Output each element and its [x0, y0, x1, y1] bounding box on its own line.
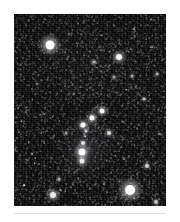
background-star	[149, 95, 150, 96]
background-star	[78, 202, 79, 203]
background-star	[70, 187, 71, 188]
background-star	[82, 41, 83, 42]
background-star	[122, 139, 123, 140]
background-star	[44, 160, 45, 161]
background-star	[86, 15, 87, 16]
background-star	[163, 70, 164, 71]
background-star	[49, 97, 50, 98]
background-star	[71, 51, 72, 52]
background-star	[131, 128, 132, 129]
background-star	[110, 205, 111, 206]
background-star	[48, 186, 49, 187]
background-star	[165, 159, 166, 160]
background-star	[51, 159, 52, 160]
background-star	[154, 17, 155, 18]
background-star	[87, 31, 88, 32]
background-star	[58, 21, 59, 22]
background-star	[118, 172, 119, 173]
background-star	[30, 135, 31, 136]
background-star	[103, 94, 104, 95]
background-star	[92, 32, 93, 33]
background-star	[76, 128, 77, 129]
background-star	[157, 144, 158, 145]
background-star	[112, 161, 113, 162]
background-star	[162, 175, 163, 176]
star-sigma-orionis	[85, 130, 88, 133]
background-star	[61, 142, 62, 143]
background-star	[48, 86, 49, 87]
background-star	[36, 127, 37, 128]
background-star	[37, 92, 38, 93]
background-star	[135, 36, 136, 37]
background-star	[78, 196, 79, 197]
background-star	[19, 154, 20, 155]
background-star	[161, 182, 162, 183]
background-star	[129, 126, 130, 127]
background-star	[15, 53, 16, 54]
background-star	[124, 138, 125, 139]
background-star	[19, 193, 20, 194]
background-star	[105, 66, 106, 67]
background-star	[79, 38, 80, 39]
background-star	[30, 199, 31, 200]
background-star	[105, 34, 106, 35]
background-star	[139, 103, 140, 104]
background-star	[153, 87, 154, 88]
background-star	[74, 180, 75, 181]
background-star	[141, 149, 142, 150]
background-star	[61, 22, 62, 23]
background-star	[79, 178, 80, 179]
background-star	[126, 27, 127, 28]
star-field-star-d	[159, 133, 161, 135]
background-star	[69, 174, 70, 175]
background-star	[148, 181, 149, 182]
background-star	[16, 51, 17, 52]
background-star	[151, 25, 152, 26]
background-star	[32, 132, 33, 133]
background-star	[150, 93, 151, 94]
background-star	[47, 65, 48, 66]
background-star	[145, 74, 146, 75]
background-star	[68, 49, 69, 50]
background-star	[96, 130, 97, 131]
background-star	[155, 28, 156, 29]
background-star	[107, 191, 108, 192]
background-star	[95, 200, 96, 201]
background-star	[154, 107, 155, 108]
background-star	[58, 102, 59, 103]
background-star	[111, 198, 112, 199]
background-star	[42, 128, 43, 129]
background-star	[142, 55, 143, 56]
background-star	[155, 119, 156, 120]
background-star	[157, 16, 158, 17]
background-star	[102, 129, 103, 130]
background-star	[135, 99, 136, 100]
background-star	[122, 16, 123, 17]
background-star	[67, 164, 68, 165]
background-star	[136, 111, 137, 112]
background-star	[115, 46, 116, 47]
background-star	[146, 24, 147, 25]
background-star	[144, 197, 145, 198]
background-star	[135, 55, 136, 56]
background-star	[95, 124, 96, 125]
background-star	[59, 158, 60, 159]
background-star	[42, 129, 43, 130]
background-star	[160, 101, 161, 102]
background-star	[111, 169, 112, 170]
background-star	[155, 34, 156, 35]
background-star	[39, 184, 40, 185]
background-star	[93, 42, 94, 43]
background-star	[144, 82, 145, 83]
star-field-star-e	[73, 93, 75, 95]
background-star	[163, 132, 164, 133]
background-star	[113, 197, 114, 198]
background-star	[65, 169, 66, 170]
background-star	[29, 51, 30, 52]
background-star	[73, 76, 74, 77]
background-star	[96, 28, 97, 29]
background-star	[40, 147, 41, 148]
background-star	[14, 116, 15, 117]
background-star	[65, 85, 66, 86]
background-star	[147, 112, 148, 113]
